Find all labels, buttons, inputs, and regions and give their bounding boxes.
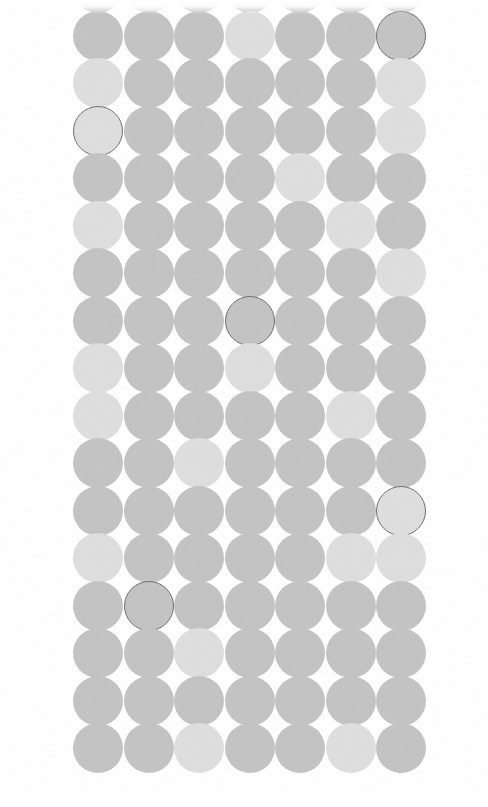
marked-circle [124, 581, 174, 631]
dot-grid-canvas [0, 0, 488, 807]
circle [124, 153, 174, 203]
circle [73, 58, 123, 108]
circle [73, 676, 123, 726]
circle [225, 391, 275, 441]
circle [73, 296, 123, 346]
circle [225, 628, 275, 678]
circle [174, 58, 224, 108]
circle [376, 676, 426, 726]
circle [124, 11, 174, 61]
circle [174, 438, 224, 488]
circle [326, 248, 376, 298]
circle [73, 391, 123, 441]
circle [174, 486, 224, 536]
circle [376, 153, 426, 203]
circle [225, 533, 275, 583]
circle [376, 106, 426, 156]
circle [275, 723, 325, 773]
marked-circle [376, 11, 426, 61]
circle [376, 391, 426, 441]
circle [275, 486, 325, 536]
circle [326, 201, 376, 251]
circle [275, 676, 325, 726]
circle [225, 248, 275, 298]
circle [376, 58, 426, 108]
circle [376, 723, 426, 773]
circle [326, 581, 376, 631]
circle [73, 581, 123, 631]
circle [225, 723, 275, 773]
circle [376, 248, 426, 298]
circle [376, 628, 426, 678]
circle [326, 391, 376, 441]
circle [275, 11, 325, 61]
circle [174, 391, 224, 441]
circle [174, 11, 224, 61]
circle [124, 628, 174, 678]
circle [326, 676, 376, 726]
circle [275, 343, 325, 393]
circle [73, 438, 123, 488]
circle [124, 486, 174, 536]
circle [174, 106, 224, 156]
circle [124, 533, 174, 583]
circle [124, 201, 174, 251]
circle [225, 676, 275, 726]
circle [326, 723, 376, 773]
circle-grid [0, 0, 488, 807]
circle [376, 296, 426, 346]
circle [326, 343, 376, 393]
circle [275, 153, 325, 203]
circle [275, 581, 325, 631]
circle [275, 533, 325, 583]
circle [225, 106, 275, 156]
circle [73, 248, 123, 298]
circle [225, 201, 275, 251]
circle [326, 486, 376, 536]
circle [174, 581, 224, 631]
circle [376, 201, 426, 251]
circle [124, 58, 174, 108]
circle [174, 676, 224, 726]
circle [73, 723, 123, 773]
circle [124, 438, 174, 488]
circle [275, 391, 325, 441]
circle [376, 581, 426, 631]
circle [326, 11, 376, 61]
circle [326, 533, 376, 583]
circle [73, 201, 123, 251]
circle [326, 438, 376, 488]
circle [174, 533, 224, 583]
circle [225, 11, 275, 61]
circle [326, 628, 376, 678]
circle [275, 58, 325, 108]
circle [124, 676, 174, 726]
marked-circle [376, 486, 426, 536]
circle [326, 296, 376, 346]
circle [275, 106, 325, 156]
circle [376, 438, 426, 488]
circle [275, 201, 325, 251]
circle [124, 296, 174, 346]
circle [73, 153, 123, 203]
circle [124, 106, 174, 156]
circle [376, 343, 426, 393]
circle [225, 58, 275, 108]
circle [326, 58, 376, 108]
circle [124, 723, 174, 773]
circle [73, 628, 123, 678]
marked-circle [225, 296, 275, 346]
circle [326, 106, 376, 156]
circle [174, 296, 224, 346]
circle [174, 201, 224, 251]
circle [174, 248, 224, 298]
circle [275, 628, 325, 678]
circle [225, 343, 275, 393]
circle [174, 153, 224, 203]
circle [174, 723, 224, 773]
circle [73, 533, 123, 583]
circle [124, 391, 174, 441]
circle [124, 248, 174, 298]
circle [275, 438, 325, 488]
circle [225, 438, 275, 488]
